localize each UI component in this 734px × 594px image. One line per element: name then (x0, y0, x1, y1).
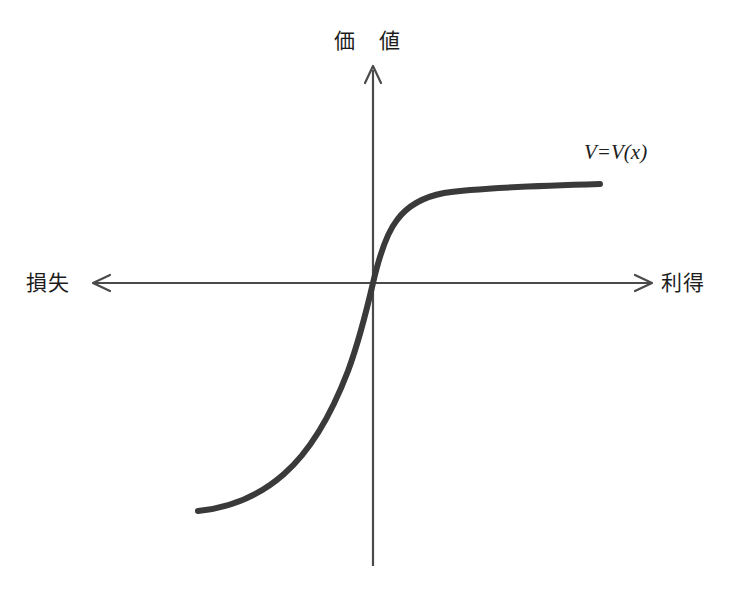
x-axis-loss-title: 損失 (26, 272, 70, 293)
x-axis-gain-title: 利得 (661, 272, 705, 293)
plot-canvas (0, 0, 734, 594)
y-axis-title: 価 値 (0, 30, 734, 51)
value-function-curve (198, 184, 600, 511)
value-function-figure: 価 値 損失 利得 V=V(x) (0, 0, 734, 594)
curve-equation-label: V=V(x) (584, 142, 647, 163)
